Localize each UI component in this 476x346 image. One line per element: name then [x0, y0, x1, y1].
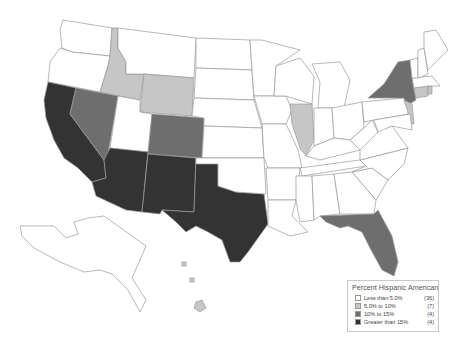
state-mississippi: [296, 176, 314, 222]
legend-item-10-to-15: 10% to 15% (4): [352, 310, 434, 318]
legend-count: (4): [420, 310, 434, 318]
legend-item-less-than-5: Less than 5.0% (36): [352, 294, 434, 302]
state-alaska: [20, 216, 146, 312]
state-wyoming: [140, 74, 194, 116]
state-maine: [424, 30, 448, 70]
legend-swatch: [355, 295, 361, 301]
legend-count: (7): [420, 302, 434, 310]
state-florida: [320, 210, 398, 276]
legend-label: 10% to 15%: [364, 310, 420, 318]
state-rhode-island: [428, 86, 432, 94]
legend-label: Greater than 15%: [364, 318, 420, 326]
legend-item-5-to-10: 5.0% to 10% (7): [352, 302, 434, 310]
state-hawaii: [194, 300, 206, 312]
state-new-mexico: [142, 154, 196, 214]
legend-count: (4): [420, 318, 434, 326]
legend-title: Percent Hispanic American: [352, 283, 434, 292]
map-legend: Percent Hispanic American Less than 5.0%…: [347, 280, 439, 332]
state-colorado: [148, 114, 204, 158]
legend-item-greater-than-15: Greater than 15% (4): [352, 318, 434, 326]
state-south-dakota: [194, 68, 254, 100]
state-arkansas: [266, 168, 300, 200]
state-kansas: [202, 126, 264, 158]
legend-label: Less than 5.0%: [364, 294, 420, 302]
state-north-dakota: [196, 38, 252, 70]
legend-count: (36): [420, 294, 434, 302]
state-hawaii-islands: [182, 262, 194, 282]
legend-swatch: [355, 319, 361, 325]
state-michigan: [312, 62, 350, 108]
legend-swatch: [355, 311, 361, 317]
legend-label: 5.0% to 10%: [364, 302, 420, 310]
state-montana: [118, 28, 196, 78]
legend-swatch: [355, 303, 361, 309]
